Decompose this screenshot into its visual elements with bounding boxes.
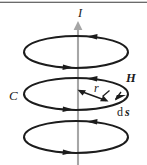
amperes-law-diagram: I C H r d s	[0, 0, 147, 165]
figure-background	[0, 0, 147, 165]
radius-label: r	[94, 81, 99, 95]
contour-label: C	[9, 88, 18, 103]
line-element-s: s	[124, 105, 130, 119]
figure-container: I C H r d s	[0, 0, 147, 165]
field-label: H	[125, 71, 137, 85]
current-label: I	[77, 6, 83, 20]
line-element-d: d	[117, 105, 123, 119]
